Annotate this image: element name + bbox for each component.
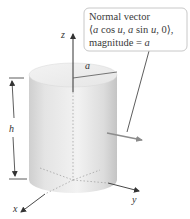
z-axis-label: z xyxy=(60,29,65,40)
callout-line-1: Normal vector xyxy=(89,11,150,22)
callout-line-3: magnitude = a xyxy=(89,37,150,48)
height-label: h xyxy=(9,123,14,134)
x-axis-label: x xyxy=(12,203,18,214)
x-axis: x xyxy=(12,194,45,214)
callout-pointer xyxy=(127,51,149,132)
y-axis: y xyxy=(108,183,139,205)
callout-line-2: ⟨a cos u, a sin u, 0⟩, xyxy=(89,24,173,35)
cylinder-diagram: z a h x y Normal vector ⟨a cos u, a sin … xyxy=(0,0,190,219)
callout-box: Normal vector ⟨a cos u, a sin u, 0⟩, mag… xyxy=(84,8,187,51)
y-axis-label: y xyxy=(131,194,137,205)
radius-label: a xyxy=(85,60,90,71)
